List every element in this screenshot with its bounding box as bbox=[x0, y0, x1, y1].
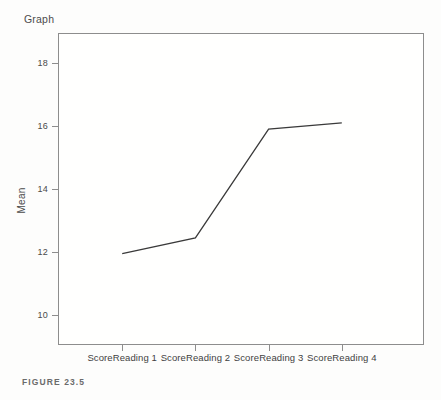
y-tick-label: 12 bbox=[28, 247, 48, 257]
y-tick-label: 16 bbox=[28, 121, 48, 131]
figure-caption: FIGURE 23.5 bbox=[22, 377, 85, 387]
x-tick-label: ScoreReading 4 bbox=[307, 352, 377, 363]
x-tick-mark bbox=[342, 345, 343, 351]
x-tick-mark bbox=[195, 345, 196, 351]
plot-area bbox=[58, 33, 424, 345]
x-tick-label: ScoreReading 1 bbox=[87, 352, 157, 363]
x-tick-label: ScoreReading 3 bbox=[234, 352, 304, 363]
y-tick-mark bbox=[52, 63, 58, 64]
y-tick-label: 18 bbox=[28, 58, 48, 68]
y-tick-mark bbox=[52, 126, 58, 127]
x-tick-mark bbox=[269, 345, 270, 351]
y-tick-mark bbox=[52, 315, 58, 316]
y-tick-label: 14 bbox=[28, 184, 48, 194]
x-tick-label: ScoreReading 2 bbox=[161, 352, 231, 363]
y-tick-mark bbox=[52, 189, 58, 190]
y-tick-mark bbox=[52, 252, 58, 253]
y-tick-label: 10 bbox=[28, 310, 48, 320]
figure-page: Graph Mean 1012141618 ScoreReading 1Scor… bbox=[0, 0, 441, 400]
x-tick-mark bbox=[122, 345, 123, 351]
graph-title: Graph bbox=[24, 13, 54, 25]
y-axis-title: Mean bbox=[16, 187, 27, 213]
